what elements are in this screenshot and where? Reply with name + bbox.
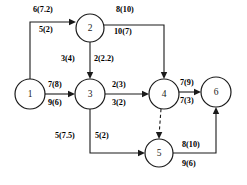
node-2-label: 2 (88, 23, 93, 33)
edge-1-to-3-upper-label: 7(8) (48, 80, 62, 89)
edge-4-to-5-dashed (156, 109, 162, 139)
edge-2-to-4-lower-label: 10(7) (114, 27, 132, 36)
edge-1-to-3-lower-label: 9(6) (48, 98, 62, 107)
edge-2-to-3-right-label: 2(2.2) (94, 54, 114, 63)
edge-1-to-2 (30, 19, 76, 79)
edge-3-to-5-right-label: 5(2) (95, 131, 109, 140)
edge-4-to-5-arrowhead (156, 132, 162, 139)
edge-2-to-3 (87, 42, 93, 79)
edge-3-to-5-arrowhead (138, 150, 145, 156)
edge-4-to-6-arrowhead (194, 89, 201, 95)
edge-5-to-6-upper-label: 8(10) (182, 140, 200, 149)
edge-2-to-4-arrowhead (161, 72, 167, 79)
edge-3-to-4 (105, 91, 149, 97)
edge-1-to-2-arrowhead (69, 19, 76, 25)
network-diagram: 1 2 3 4 5 6 6(7.2) 5(2) 8(10) 10(7) 3(4)… (0, 0, 247, 185)
node-1-label: 1 (28, 89, 33, 99)
edge-2-to-4-upper-label: 8(10) (116, 5, 134, 14)
node-4-label: 4 (162, 89, 167, 99)
edge-3-to-5-left-label: 5(7.5) (55, 131, 75, 140)
edge-3-to-4-arrowhead (142, 91, 149, 97)
edge-4-to-5-line (159, 109, 161, 136)
node-5[interactable]: 5 (145, 139, 173, 167)
node-6-label: 6 (214, 87, 219, 97)
node-2[interactable]: 2 (76, 14, 104, 42)
edge-5-to-6-lower-label: 9(6) (182, 159, 196, 168)
edge-1-to-3-arrowhead (68, 91, 75, 97)
node-3-label: 3 (88, 89, 93, 99)
node-4[interactable]: 4 (149, 79, 179, 109)
edge-2-to-3-arrowhead (87, 72, 93, 79)
edge-4-to-6-lower-label: 7(3) (180, 96, 194, 105)
node-1[interactable]: 1 (15, 79, 45, 109)
edge-1-to-2-lower-label: 5(2) (39, 25, 53, 34)
node-3[interactable]: 3 (75, 79, 105, 109)
node-6[interactable]: 6 (201, 77, 231, 107)
node-5-label: 5 (157, 148, 162, 158)
edge-3-to-4-upper-label: 2(3) (112, 80, 126, 89)
edge-1-to-2-upper-label: 6(7.2) (33, 5, 53, 14)
edge-4-to-6-upper-label: 7(9) (180, 78, 194, 87)
edge-3-to-4-lower-label: 3(2) (112, 98, 126, 107)
edge-1-to-3 (45, 91, 75, 97)
edge-5-to-6-arrowhead (213, 107, 219, 114)
edge-4-to-6 (179, 89, 201, 95)
edge-2-to-4-line (104, 25, 164, 76)
edge-2-to-3-left-label: 3(4) (61, 54, 75, 63)
